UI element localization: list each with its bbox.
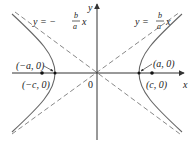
y-axis-label: y [87, 2, 93, 13]
right-focus-dot [150, 71, 154, 75]
left-focus-dot [40, 71, 44, 75]
x-axis-label: x [182, 79, 188, 90]
asymptote-label-positive: y = b a x [134, 11, 171, 31]
svg-text:b: b [74, 11, 78, 20]
left-vertex-label: (−a, 0) [16, 60, 45, 72]
svg-text:a: a [73, 22, 77, 31]
asymptote-label-negative: y = − b a x [32, 11, 87, 31]
svg-text:b: b [158, 11, 162, 20]
svg-text:x: x [81, 16, 87, 27]
svg-text:y = −: y = − [32, 16, 56, 27]
left-focus-label: (−c, 0) [22, 79, 51, 91]
right-vertex-label: (a, 0) [153, 58, 175, 70]
svg-text:x: x [165, 16, 171, 27]
right-vertex-dot [138, 72, 141, 75]
svg-text:y =: y = [134, 16, 149, 27]
svg-text:a: a [157, 22, 161, 31]
left-vertex-pointer [44, 66, 53, 71]
origin-label: 0 [88, 79, 93, 90]
right-vertex-pointer [141, 64, 152, 71]
right-focus-label: (c, 0) [146, 79, 168, 91]
left-vertex-dot [54, 72, 57, 75]
hyperbola-diagram: y x 0 y = − b a x y = b a x (−a, 0) (a, … [0, 0, 196, 145]
